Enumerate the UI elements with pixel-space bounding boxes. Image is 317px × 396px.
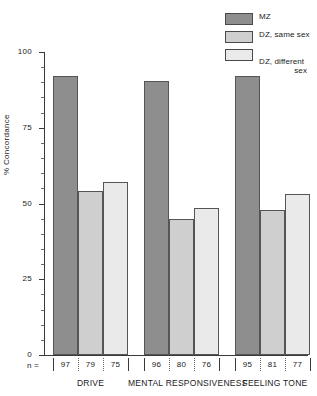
n-value-feeling-tone-dz-same-sex: 81: [260, 360, 285, 369]
y-tick-label-25: 25: [23, 275, 33, 283]
bar-mental-responsiveness-dz-different-sex: [194, 208, 219, 355]
sample-size-row: n = 97 79 75 96 80 76 95 81 77: [0, 358, 317, 372]
y-minor-tick: [41, 188, 44, 189]
n-value-mental-responsiveness-mz: 96: [144, 360, 169, 369]
x-axis-line: [44, 355, 308, 356]
n-row-label: n =: [27, 361, 39, 370]
n-value-feeling-tone-dz-different-sex: 77: [285, 360, 310, 369]
category-label-mental-responsiveness: MENTAL RESPONSIVENESS: [128, 378, 235, 388]
bar-feeling-tone-dz-different-sex: [285, 194, 310, 355]
legend-label-dz-same-sex: DZ, same sex: [259, 30, 310, 39]
y-minor-tick: [41, 113, 44, 114]
y-minor-tick: [41, 82, 44, 83]
category-label-drive: DRIVE: [53, 378, 128, 388]
y-tick-label-75: 75: [23, 124, 33, 132]
n-row-separator: [128, 358, 129, 371]
y-tick-label-100: 100: [18, 48, 32, 56]
n-value-mental-responsiveness-dz-same-sex: 80: [169, 360, 194, 369]
n-row-separator: [219, 358, 220, 371]
y-minor-tick: [41, 340, 44, 341]
y-axis-title: % Concordance: [2, 114, 11, 175]
legend-item-mz: MZ: [225, 12, 317, 25]
bar-drive-dz-different-sex: [103, 182, 128, 355]
y-minor-tick: [41, 310, 44, 311]
plot-area: 100 75 50 25 0: [44, 52, 308, 355]
concordance-bar-chart: MZ DZ, same sex DZ, different sex % Conc…: [0, 0, 317, 396]
bar-drive-dz-same-sex: [78, 191, 103, 355]
y-minor-tick: [41, 249, 44, 250]
y-tick-100: 100: [39, 52, 44, 53]
y-tick-50: 50: [39, 204, 44, 205]
category-label-feeling-tone: FEELING TONE: [235, 378, 315, 388]
y-minor-tick: [41, 294, 44, 295]
n-row-separator: [310, 358, 311, 371]
x-axis-category-labels: DRIVE MENTAL RESPONSIVENESS FEELING TONE: [0, 378, 317, 392]
y-minor-tick: [41, 67, 44, 68]
n-value-feeling-tone-mz: 95: [235, 360, 260, 369]
y-minor-tick: [41, 158, 44, 159]
legend-item-dz-same-sex: DZ, same sex: [225, 30, 317, 43]
y-minor-tick: [41, 234, 44, 235]
bar-feeling-tone-dz-same-sex: [260, 210, 285, 355]
legend-swatch-dz-same-sex: [225, 31, 253, 43]
y-minor-tick: [41, 173, 44, 174]
legend-label-mz: MZ: [259, 12, 271, 21]
bar-mental-responsiveness-mz: [144, 81, 169, 355]
y-tick-25: 25: [39, 279, 44, 280]
y-minor-tick: [41, 97, 44, 98]
y-minor-tick: [41, 143, 44, 144]
legend-swatch-mz: [225, 13, 253, 25]
n-value-drive-dz-same-sex: 79: [78, 360, 103, 369]
y-minor-tick: [41, 325, 44, 326]
y-axis-line: [44, 52, 45, 355]
bar-feeling-tone-mz: [235, 76, 260, 355]
y-minor-tick: [41, 264, 44, 265]
n-value-drive-mz: 97: [53, 360, 78, 369]
bar-mental-responsiveness-dz-same-sex: [169, 219, 194, 355]
n-value-mental-responsiveness-dz-different-sex: 76: [194, 360, 219, 369]
y-tick-label-50: 50: [23, 200, 33, 208]
y-tick-0: 0: [39, 355, 44, 356]
n-value-drive-dz-different-sex: 75: [103, 360, 128, 369]
y-minor-tick: [41, 219, 44, 220]
bar-drive-mz: [53, 76, 78, 355]
y-tick-75: 75: [39, 128, 44, 129]
